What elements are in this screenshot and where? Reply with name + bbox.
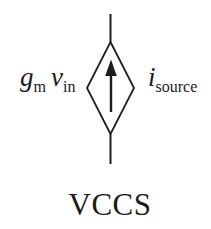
vccs-figure: gmvin isource VCCS [0,0,211,229]
vin-variable: v [51,62,63,92]
transconductance-label: gmvin [20,64,75,95]
vin-subscript: in [63,78,75,95]
gm-variable: g [20,62,34,92]
up-arrow-icon [105,60,117,113]
figure-caption: VCCS [0,189,211,220]
isource-subscript: source [156,78,198,95]
up-arrow-head [105,60,117,77]
isource-variable: i [148,62,156,92]
source-current-label: isource [148,64,197,95]
gm-subscript: m [34,78,46,95]
